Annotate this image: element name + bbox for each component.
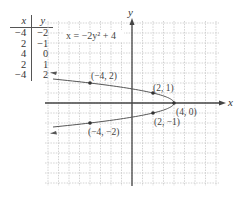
x-axis-arrow-icon	[219, 101, 226, 106]
point-marker	[151, 111, 155, 115]
point-label: (2, −1)	[154, 117, 180, 128]
graph: x y x = −2y² + 4 (−4, 2) (2, 1) (4, 0) (…	[0, 0, 237, 197]
point-marker	[88, 121, 92, 125]
point-marker	[88, 81, 92, 85]
y-axis-label: y	[127, 6, 133, 18]
x-axis-label: x	[227, 96, 233, 108]
equation-label: x = −2y² + 4	[66, 30, 116, 41]
point-label: (2, 1)	[153, 83, 174, 94]
point-marker	[172, 101, 176, 105]
y-axis-arrow-icon	[130, 18, 135, 25]
point-label: (−4, −2)	[88, 127, 119, 138]
point-label: (−4, 2)	[91, 71, 117, 82]
